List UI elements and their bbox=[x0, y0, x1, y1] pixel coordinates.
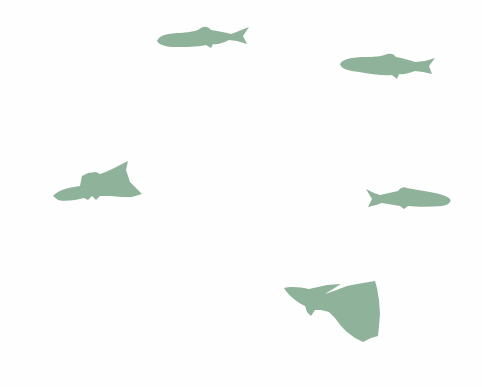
guppy-fish-silhouette bbox=[52, 160, 142, 206]
minnow-fish-silhouette bbox=[155, 24, 251, 52]
fish-icon bbox=[339, 52, 436, 82]
fish-icon bbox=[283, 280, 383, 342]
guppy-fish-silhouette bbox=[283, 280, 383, 342]
fish-scene bbox=[0, 0, 482, 387]
fish-icon bbox=[155, 24, 251, 52]
minnow-fish-silhouette bbox=[364, 185, 452, 211]
fish-icon bbox=[52, 160, 142, 206]
minnow-fish-silhouette bbox=[339, 52, 436, 82]
fish-icon bbox=[364, 185, 452, 211]
